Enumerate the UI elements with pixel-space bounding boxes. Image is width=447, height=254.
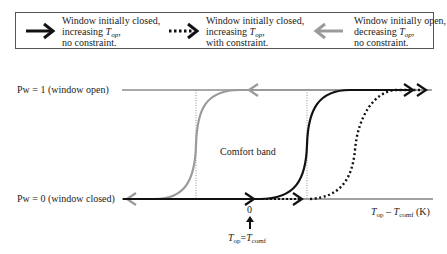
zero-tick-label: 0	[247, 204, 252, 215]
black-solid-curve	[123, 84, 413, 205]
x-axis-label: Top – Tcomf (K)	[371, 206, 430, 217]
pw1-label: Pw = 1 (window open)	[17, 84, 109, 95]
zero-up-arrow-icon	[246, 216, 254, 229]
grey-curve	[123, 84, 430, 205]
comfort-band-label: Comfort band	[220, 146, 276, 157]
pw0-label: Pw = 0 (window closed)	[17, 193, 115, 204]
zero-annotation: Top=Tcomf	[228, 232, 266, 243]
black-dotted-curve	[258, 84, 426, 205]
